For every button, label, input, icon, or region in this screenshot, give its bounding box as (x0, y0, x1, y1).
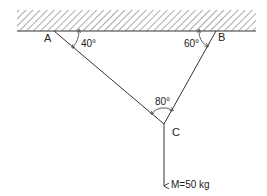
point-label-c: C (172, 126, 180, 138)
angle-arc-b (199, 31, 207, 46)
ceiling-hatching (17, 10, 256, 31)
load-label: M=50 kg (171, 179, 210, 190)
cable-ac (54, 31, 164, 124)
angle-arc-a (73, 31, 79, 47)
ceiling-support (17, 10, 256, 31)
angle-label-b: 60° (184, 38, 199, 49)
angle-label-c: 80° (155, 96, 170, 107)
angle-arc-c (152, 108, 172, 113)
point-label-b: B (218, 31, 225, 43)
point-label-a: A (44, 32, 52, 44)
force-diagram: A B C 40° 60° 80° M=50 kg (0, 0, 267, 196)
angle-label-a: 40° (81, 38, 96, 49)
